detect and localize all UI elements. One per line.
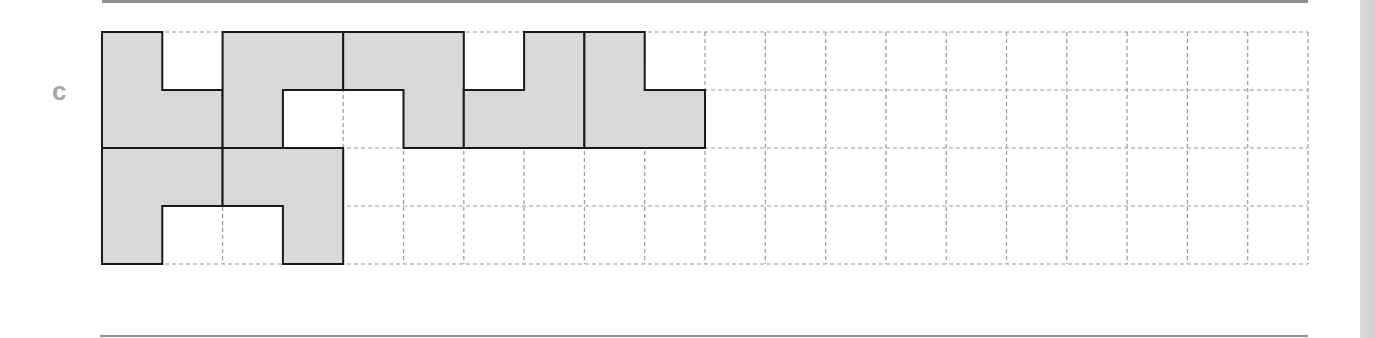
dot-grid-diagram: [0, 0, 1375, 338]
shape-4: [464, 32, 585, 148]
shape-7: [223, 148, 344, 264]
shape-3: [343, 32, 464, 148]
shape-1: [102, 32, 223, 148]
shape-6: [102, 148, 223, 264]
shape-2: [223, 32, 344, 148]
shape-5: [584, 32, 705, 148]
